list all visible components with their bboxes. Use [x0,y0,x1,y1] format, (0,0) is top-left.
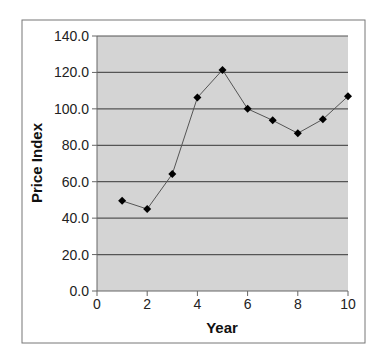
plot-area [97,36,348,291]
x-axis-title: Year [206,319,238,336]
y-tick-label: 60.0 [62,174,89,190]
x-tick-label: 4 [194,296,202,312]
y-tick-label: 20.0 [62,247,89,263]
x-tick-label: 10 [340,296,356,312]
y-tick-label: 40.0 [62,210,89,226]
y-tick-label: 140.0 [54,28,89,44]
x-tick-label: 8 [294,296,302,312]
chart-container: 0.020.040.060.080.0100.0120.0140.0 02468… [0,0,382,364]
x-tick-label: 0 [93,296,101,312]
x-tick-label: 6 [244,296,252,312]
line-chart: 0.020.040.060.080.0100.0120.0140.0 02468… [0,0,382,364]
y-axis-title: Price Index [28,122,45,203]
y-tick-label: 0.0 [70,283,90,299]
y-tick-label: 100.0 [54,101,89,117]
y-tick-label: 80.0 [62,137,89,153]
x-tick-label: 2 [143,296,151,312]
y-tick-label: 120.0 [54,64,89,80]
